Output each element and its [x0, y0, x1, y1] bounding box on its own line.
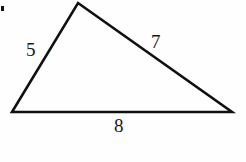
triangle-figure: 5 7 8 — [0, 0, 246, 162]
side-length-label-left: 5 — [26, 40, 36, 59]
edge-speck-mark — [1, 6, 4, 11]
side-length-label-base: 8 — [114, 116, 124, 135]
triangle-shape — [12, 3, 232, 112]
triangle-outline-svg — [0, 0, 246, 162]
side-length-label-right: 7 — [151, 32, 161, 51]
